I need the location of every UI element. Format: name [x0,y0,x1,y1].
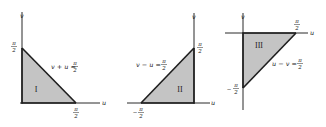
v-axis-label: v [241,13,245,21]
svg-text:2: 2 [161,65,166,71]
v-axis-label: v [192,13,196,21]
u-axis-label: u [310,29,314,37]
svg-text:π: π [294,18,299,24]
svg-text:2: 2 [233,89,238,95]
v-axis-label: v [20,12,24,20]
tick-label-u-pi-over-2: π 2 [73,106,79,119]
svg-text:π: π [233,82,238,88]
panel-2: v u π 2 − π 2 v − u = π 2 II [127,13,215,119]
svg-text:−: − [133,109,138,115]
svg-text:u − v =: u − v = [272,60,297,68]
svg-text:π: π [161,58,166,64]
region-label-2: II [177,85,183,94]
svg-text:2: 2 [297,64,302,70]
region-label-1: I [35,85,38,94]
svg-text:π: π [72,60,77,66]
svg-text:π: π [138,106,143,112]
svg-text:2: 2 [138,113,143,119]
svg-text:2: 2 [197,48,202,54]
svg-text:2: 2 [294,25,299,31]
panel-1: v u π 2 π 2 v + u = π 2 I [11,12,106,119]
u-axis-label: u [102,99,106,107]
boundary-equation-2: v − u = π 2 [136,58,167,71]
svg-text:v − u =: v − u = [136,61,161,69]
svg-text:π: π [297,57,302,63]
boundary-equation-3: u − v = π 2 [272,57,303,70]
tick-label-v-neg-pi-over-2: − π 2 [227,82,239,95]
u-axis-label: u [211,99,215,107]
svg-text:2: 2 [11,47,16,53]
svg-text:π: π [197,41,202,47]
svg-text:π: π [73,106,78,112]
uv-regions-figure: v u π 2 π 2 v + u = π 2 I v u [0,0,326,127]
svg-text:2: 2 [73,113,78,119]
tick-label-v-pi-over-2: π 2 [197,41,203,54]
tick-label-u-pi-over-2: π 2 [294,18,300,31]
region-label-3: III [255,41,263,50]
panel-3: v u π 2 − π 2 u − v = π 2 III [225,13,314,110]
tick-label-u-neg-pi-over-2: − π 2 [133,106,144,119]
svg-text:π: π [11,40,16,46]
boundary-equation-1: v + u = π 2 [51,60,78,73]
svg-text:2: 2 [72,67,77,73]
svg-text:−: − [227,86,232,92]
tick-label-v-pi-over-2: π 2 [11,40,17,53]
